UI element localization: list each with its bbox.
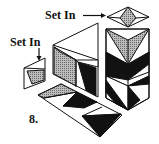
set-in-label-left: Set In — [10, 36, 40, 48]
set-in-diamond-piece — [107, 7, 149, 27]
figure-number: 8. — [29, 113, 38, 125]
set-in-label-top: Set In — [45, 9, 75, 21]
arrow-down-icon — [37, 48, 42, 61]
right-column-piece — [106, 29, 149, 110]
set-in-small-piece — [24, 58, 45, 89]
diagram-drawing — [0, 0, 159, 144]
quilt-assembly-diagram: Set In Set In 8. — [0, 0, 159, 144]
arrow-right-icon — [83, 13, 106, 18]
